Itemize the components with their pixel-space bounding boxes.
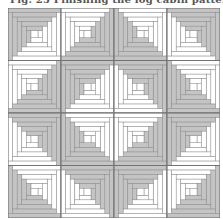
log-dark-horizontal xyxy=(167,213,220,218)
block-center xyxy=(137,83,144,90)
log-dark-vertical xyxy=(215,13,220,61)
log-light-horizontal xyxy=(172,170,211,175)
log-dark-horizontal xyxy=(114,56,167,61)
log-dark-vertical xyxy=(13,170,18,209)
quilt-block xyxy=(114,113,167,166)
log-light-vertical xyxy=(185,188,190,195)
log-dark-vertical xyxy=(211,170,216,209)
log-light-horizontal xyxy=(185,38,197,43)
log-dark-vertical xyxy=(172,65,177,104)
log-dark-vertical xyxy=(61,113,66,161)
log-light-vertical xyxy=(109,118,114,161)
log-light-vertical xyxy=(197,83,202,90)
log-light-horizontal xyxy=(185,184,197,189)
log-light-vertical xyxy=(132,136,137,143)
log-light-vertical xyxy=(13,70,18,104)
log-light-vertical xyxy=(128,131,133,147)
log-dark-vertical xyxy=(13,17,18,56)
log-light-vertical xyxy=(26,136,31,143)
log-dark-vertical xyxy=(176,70,181,100)
log-dark-vertical xyxy=(66,118,71,157)
log-light-vertical xyxy=(61,13,66,56)
log-light-horizontal xyxy=(172,61,220,66)
quilt-block xyxy=(61,113,114,166)
log-dark-horizontal xyxy=(123,70,158,75)
log-light-horizontal xyxy=(66,13,105,18)
log-light-horizontal xyxy=(8,161,56,166)
log-light-vertical xyxy=(202,79,207,95)
log-light-horizontal xyxy=(132,131,144,136)
log-light-vertical xyxy=(123,127,128,152)
log-light-horizontal xyxy=(128,17,158,22)
quilt-block xyxy=(61,61,114,114)
log-dark-vertical xyxy=(162,113,167,161)
log-dark-horizontal xyxy=(132,143,148,148)
log-dark-vertical xyxy=(75,79,80,100)
log-dark-vertical xyxy=(181,74,186,95)
log-dark-horizontal xyxy=(22,22,47,27)
log-dark-horizontal xyxy=(8,8,61,13)
log-light-horizontal xyxy=(75,22,96,27)
log-light-vertical xyxy=(61,170,66,213)
log-dark-vertical xyxy=(8,166,13,214)
log-dark-vertical xyxy=(56,61,61,109)
log-light-horizontal xyxy=(181,179,202,184)
log-light-vertical xyxy=(114,65,119,108)
log-light-vertical xyxy=(100,74,105,99)
log-dark-horizontal xyxy=(26,90,42,95)
quilt-block xyxy=(114,166,167,219)
log-dark-horizontal xyxy=(114,166,167,171)
log-dark-horizontal xyxy=(66,65,110,70)
log-light-vertical xyxy=(211,70,216,104)
log-dark-vertical xyxy=(167,118,172,166)
log-dark-vertical xyxy=(26,31,31,43)
log-dark-vertical xyxy=(206,22,211,52)
log-light-horizontal xyxy=(119,104,158,109)
quilt-block xyxy=(8,61,61,114)
log-dark-vertical xyxy=(202,26,207,47)
log-light-horizontal xyxy=(128,204,158,209)
log-light-horizontal xyxy=(31,184,43,189)
log-dark-horizontal xyxy=(22,200,47,205)
log-dark-vertical xyxy=(22,26,27,47)
log-light-vertical xyxy=(47,22,52,47)
log-dark-horizontal xyxy=(66,170,110,175)
log-light-vertical xyxy=(96,131,101,147)
log-dark-horizontal xyxy=(123,47,158,52)
log-dark-vertical xyxy=(52,65,57,104)
block-center xyxy=(190,188,197,195)
log-dark-horizontal xyxy=(123,175,158,180)
log-light-vertical xyxy=(215,118,220,161)
log-light-vertical xyxy=(43,184,48,200)
log-light-vertical xyxy=(176,22,181,47)
log-light-vertical xyxy=(70,179,75,204)
log-dark-vertical xyxy=(149,127,154,148)
log-dark-vertical xyxy=(79,131,84,143)
log-dark-horizontal xyxy=(167,108,220,113)
log-dark-horizontal xyxy=(132,184,148,189)
log-dark-vertical xyxy=(132,26,137,38)
log-light-vertical xyxy=(211,122,216,156)
log-dark-vertical xyxy=(185,136,190,148)
log-dark-horizontal xyxy=(185,90,201,95)
log-dark-horizontal xyxy=(185,195,201,200)
log-light-horizontal xyxy=(176,65,215,70)
quilt-block xyxy=(61,166,114,219)
quilt-block xyxy=(61,8,114,61)
block-center xyxy=(190,83,197,90)
log-dark-vertical xyxy=(38,79,43,91)
log-dark-horizontal xyxy=(128,74,153,79)
log-light-vertical xyxy=(149,26,154,42)
log-light-horizontal xyxy=(22,74,43,79)
log-light-vertical xyxy=(119,122,124,156)
log-dark-horizontal xyxy=(75,147,100,152)
log-dark-horizontal xyxy=(167,113,220,118)
log-dark-vertical xyxy=(176,127,181,157)
log-light-vertical xyxy=(52,175,57,209)
log-light-horizontal xyxy=(123,13,162,18)
log-dark-horizontal xyxy=(26,131,42,136)
log-light-vertical xyxy=(22,79,27,95)
log-dark-horizontal xyxy=(79,38,95,43)
log-light-vertical xyxy=(38,31,43,38)
log-light-vertical xyxy=(167,170,172,213)
